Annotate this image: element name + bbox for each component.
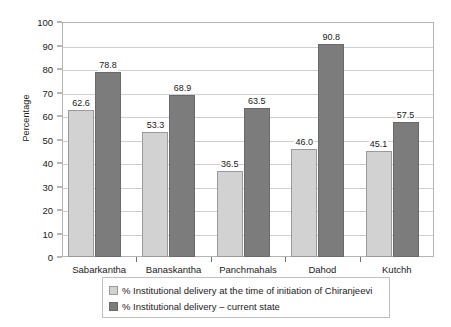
bar-value-label: 78.8 — [98, 60, 118, 71]
bar-value-label: 57.5 — [396, 110, 416, 121]
x-tick-label: Sabarkantha — [72, 264, 126, 275]
y-tick-label: 100 — [37, 17, 53, 28]
x-tick-label: Panchmahals — [219, 264, 277, 275]
y-tick-label: 40 — [42, 158, 53, 169]
y-tick-label: 10 — [42, 228, 53, 239]
x-tick-mark — [211, 257, 212, 262]
bar-series-container: 62.678.853.368.936.563.546.090.845.157.5 — [62, 22, 434, 257]
bar-group: 36.563.5 — [211, 22, 285, 257]
bar: 53.3 — [142, 132, 168, 257]
bar: 62.6 — [68, 110, 94, 257]
legend-item: % Institutional delivery at the time of … — [109, 283, 383, 298]
bar-chart-figure: Percentage 0102030405060708090100 62.678… — [0, 0, 451, 327]
bar: 68.9 — [169, 95, 195, 257]
bar: 57.5 — [393, 122, 419, 257]
x-tick-mark — [136, 257, 137, 262]
y-tick-label: 20 — [42, 205, 53, 216]
y-tick-label: 70 — [42, 87, 53, 98]
bar-value-label: 68.9 — [173, 83, 193, 94]
y-axis: 0102030405060708090100 — [0, 22, 62, 257]
chart-legend: % Institutional delivery at the time of … — [102, 277, 390, 318]
x-tick-label: Dahod — [308, 264, 336, 275]
x-tick-mark — [285, 257, 286, 262]
legend-swatch-icon — [109, 286, 118, 295]
legend-item: % Institutional delivery – current state — [109, 299, 383, 314]
bar-value-label: 62.6 — [71, 98, 91, 109]
y-tick-label: 80 — [42, 64, 53, 75]
y-tick-label: 0 — [48, 252, 53, 263]
bar-value-label: 63.5 — [247, 96, 267, 107]
x-tick-mark — [360, 257, 361, 262]
bar: 78.8 — [95, 72, 121, 257]
y-tick-label: 30 — [42, 181, 53, 192]
y-tick-label: 60 — [42, 111, 53, 122]
x-tick-label: Kutchh — [382, 264, 412, 275]
bar-value-label: 90.8 — [321, 32, 341, 43]
bar: 63.5 — [244, 108, 270, 257]
bar-value-label: 46.0 — [294, 137, 314, 148]
bar: 90.8 — [318, 44, 344, 257]
bar-value-label: 45.1 — [369, 139, 389, 150]
bar-value-label: 36.5 — [220, 159, 240, 170]
bar: 46.0 — [291, 149, 317, 257]
y-tick-label: 50 — [42, 134, 53, 145]
legend-label: % Institutional delivery – current state — [122, 301, 280, 312]
legend-swatch-icon — [109, 302, 118, 311]
bar: 45.1 — [366, 151, 392, 257]
legend-label: % Institutional delivery at the time of … — [122, 285, 372, 296]
bar-group: 62.678.8 — [62, 22, 136, 257]
bar: 36.5 — [217, 171, 243, 257]
x-tick-label: Banaskantha — [146, 264, 201, 275]
bar-value-label: 53.3 — [146, 120, 166, 131]
bar-group: 53.368.9 — [136, 22, 210, 257]
bar-group: 46.090.8 — [285, 22, 359, 257]
bar-group: 45.157.5 — [360, 22, 434, 257]
x-axis: SabarkanthaBanaskanthaPanchmahalsDahodKu… — [62, 257, 434, 279]
y-tick-label: 90 — [42, 40, 53, 51]
